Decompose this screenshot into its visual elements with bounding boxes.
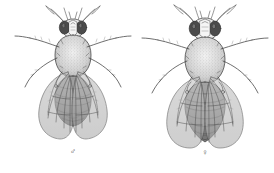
figure-label-male: ♂ xyxy=(8,148,138,156)
fly-female-drawing xyxy=(140,0,270,152)
illustration-plate: ♂ xyxy=(0,0,274,173)
fly-male-drawing xyxy=(8,0,138,150)
figure-label-female: ♀ xyxy=(140,149,270,157)
